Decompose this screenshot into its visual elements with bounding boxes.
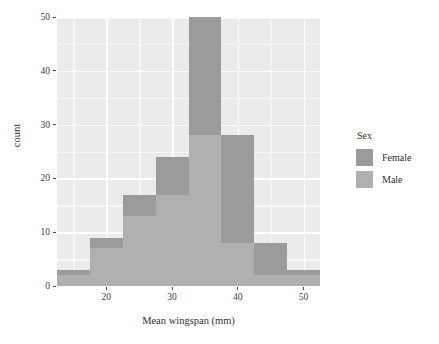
bar-segment-male: [254, 275, 287, 286]
histogram-figure: 01020304050 20304050 Mean wingspan (mm) …: [0, 0, 439, 344]
bar-segment-female: [254, 243, 287, 275]
bar-segment-female: [57, 270, 90, 275]
y-axis-tick-mark: [53, 17, 56, 18]
y-axis-tick-mark: [53, 232, 56, 233]
plot-panel: [57, 17, 320, 286]
bar-segment-female: [221, 135, 254, 243]
bar-segment-male: [287, 275, 320, 286]
bar-segment-male: [57, 275, 90, 286]
bar-segment-male: [123, 216, 156, 286]
histogram-bin: [123, 195, 156, 286]
legend: Sex FemaleMale: [356, 130, 436, 191]
legend-title: Sex: [356, 130, 436, 141]
bar-segment-male: [221, 243, 254, 286]
y-axis-label: count: [11, 106, 22, 166]
histogram-bin: [90, 238, 123, 286]
legend-item[interactable]: Female: [356, 147, 436, 167]
bar-segment-female: [156, 157, 189, 195]
bar-segment-male: [90, 248, 123, 286]
x-axis-tick-label: 20: [102, 292, 112, 302]
x-axis-tick-mark: [172, 287, 173, 290]
x-axis-tick-mark: [106, 287, 107, 290]
bar-segment-male: [156, 195, 189, 286]
bars-layer: [57, 17, 320, 286]
x-axis-tick-mark: [303, 287, 304, 290]
histogram-bin: [156, 157, 189, 286]
legend-items: FemaleMale: [356, 147, 436, 189]
legend-item-label: Female: [382, 152, 411, 163]
y-axis-tick-label: 50: [41, 12, 51, 22]
x-axis-tick-label: 40: [233, 292, 243, 302]
y-axis-tick-label: 40: [41, 66, 51, 76]
bar-segment-female: [123, 195, 156, 217]
y-axis-tick-label: 10: [41, 227, 51, 237]
y-axis-tick-mark: [53, 286, 56, 287]
legend-item[interactable]: Male: [356, 169, 436, 189]
bar-segment-female: [189, 17, 222, 135]
y-axis-tick-mark: [53, 178, 56, 179]
x-axis-label: Mean wingspan (mm): [57, 315, 320, 326]
histogram-bin: [57, 270, 90, 286]
y-axis-tick-label: 0: [45, 281, 50, 291]
legend-key-swatch: [356, 149, 373, 166]
bar-segment-female: [287, 270, 320, 275]
x-axis-tick-label: 50: [299, 292, 309, 302]
y-axis-tick-label: 30: [41, 120, 51, 130]
y-axis-tick-label: 20: [41, 173, 51, 183]
histogram-bin: [287, 270, 320, 286]
y-axis-tick-mark: [53, 70, 56, 71]
legend-item-label: Male: [382, 174, 403, 185]
bar-segment-male: [189, 135, 222, 286]
x-axis-tick-mark: [237, 287, 238, 290]
bar-segment-female: [90, 238, 123, 249]
x-axis-tick-label: 30: [167, 292, 177, 302]
histogram-bin: [189, 17, 222, 286]
y-axis-tick-mark: [53, 124, 56, 125]
histogram-bin: [254, 243, 287, 286]
histogram-bin: [221, 135, 254, 286]
legend-key-swatch: [356, 171, 373, 188]
